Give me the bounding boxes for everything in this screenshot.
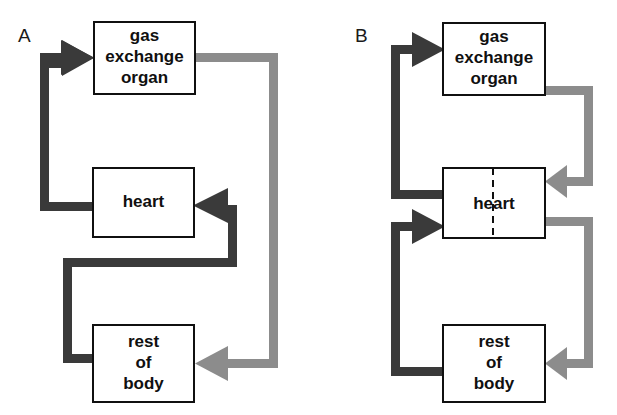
panel-a-box-gas-exchange-organ-line1: gas [130, 26, 159, 45]
panel-a-box-rest-of-body-line2: of [135, 353, 151, 372]
panel-b-box-rest-of-body-line2: of [486, 353, 502, 372]
panel-b-box-rest-of-body-line3: body [474, 374, 515, 393]
panel-a-flow-body-inlet [63, 354, 96, 363]
panel-a-box-gas-exchange-organ-line2: exchange [105, 47, 183, 66]
panel-b-box-heart: heart [443, 168, 545, 238]
panel-a-flow-bottom-right-elbow [226, 359, 278, 368]
panel-b-box-rest-of-body-line1: rest [478, 332, 510, 351]
panel-b-box-rest-of-body: rest of body [443, 325, 545, 402]
panel-a-box-heart-label: heart [123, 192, 165, 211]
panel-b-flow-heart-inlet-elbow [563, 177, 593, 186]
panel-a-box-gas-exchange-organ-line3: organ [121, 68, 168, 87]
panel-a-flow-right-descender [269, 53, 278, 363]
panel-a-box-rest-of-body: rest of body [93, 325, 194, 402]
panel-b-box-gas-exchange-organ-line2: exchange [455, 48, 533, 67]
panel-b-flow-left-riser-upper [391, 45, 400, 199]
panel-b-box-heart-label: heart [473, 194, 515, 213]
panel-a-box-rest-of-body-line3: body [123, 374, 164, 393]
panel-a-label: A [18, 25, 31, 46]
panel-b-flow-right-descender-lower [584, 217, 593, 363]
panel-a-box-heart: heart [93, 168, 194, 237]
panel-a-flow-gas-exchange-outlet [195, 53, 278, 62]
panel-a-box-gas-exchange-organ: gas exchange organ [94, 22, 195, 94]
panel-b-box-gas-exchange-organ: gas exchange organ [443, 23, 545, 95]
circulation-diagram: A gas exchange organ heart [0, 0, 617, 415]
panel-a-box-rest-of-body-line1: rest [128, 332, 160, 351]
panel-b-box-gas-exchange-organ-line3: organ [470, 69, 517, 88]
panel-b-flow-left-riser-lower [391, 222, 400, 376]
panel-a-flow-left-riser [40, 53, 49, 211]
panel-a-flow-body-return-descender [63, 258, 72, 363]
panel-a-flow-body-return-riser [228, 205, 237, 267]
panel-b-label: B [355, 25, 368, 46]
panel-a-flow-body-return-horizontal [63, 258, 237, 267]
panel-b-box-gas-exchange-organ-line1: gas [479, 27, 508, 46]
panel-b-flow-body-inlet-elbow [563, 359, 593, 368]
panel-b-flow-right-descender-upper [584, 86, 593, 182]
